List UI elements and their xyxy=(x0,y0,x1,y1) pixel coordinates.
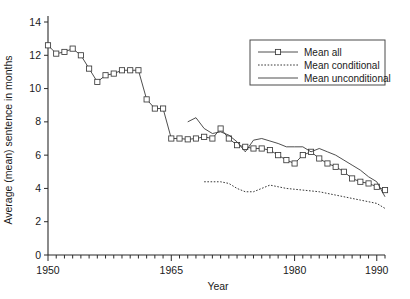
x-tick-label: 1990 xyxy=(365,264,389,276)
data-point-marker xyxy=(317,156,322,161)
legend-label: Mean conditional xyxy=(304,60,380,71)
data-point-marker xyxy=(366,181,371,186)
data-point-marker xyxy=(193,136,198,141)
data-point-marker xyxy=(136,68,141,73)
y-tick-label: 14 xyxy=(29,16,41,28)
y-tick-label: 12 xyxy=(29,49,41,61)
data-point-marker xyxy=(78,53,83,58)
data-point-marker xyxy=(45,43,50,48)
x-tick-label: 1980 xyxy=(283,264,307,276)
data-point-marker xyxy=(350,176,355,181)
data-point-marker xyxy=(259,146,264,151)
data-point-marker xyxy=(341,169,346,174)
y-axis-title: Average (mean) sentence in months xyxy=(2,55,14,224)
data-point-marker xyxy=(276,153,281,158)
series-mean-conditional xyxy=(204,182,385,209)
data-point-marker xyxy=(95,79,100,84)
data-point-marker xyxy=(300,153,305,158)
data-point-marker xyxy=(177,136,182,141)
data-point-marker xyxy=(382,187,387,192)
data-point-marker xyxy=(86,66,91,71)
data-point-marker xyxy=(333,164,338,169)
data-point-marker xyxy=(169,136,174,141)
data-point-marker xyxy=(152,106,157,111)
x-axis: 1950196519801990 xyxy=(36,255,388,276)
x-tick-label: 1965 xyxy=(160,264,184,276)
data-point-marker xyxy=(128,68,133,73)
legend-label: Mean all xyxy=(304,47,342,58)
data-point-marker xyxy=(70,46,75,51)
y-tick-label: 4 xyxy=(35,182,41,194)
data-point-marker xyxy=(292,161,297,166)
y-tick-label: 10 xyxy=(29,82,41,94)
data-point-marker xyxy=(54,51,59,56)
chart-canvas: 02468101214 1950196519801990 Mean allMea… xyxy=(0,0,410,299)
data-point-marker xyxy=(358,179,363,184)
data-point-marker xyxy=(210,136,215,141)
x-tick-label: 1950 xyxy=(36,264,60,276)
data-point-marker xyxy=(267,148,272,153)
data-point-marker xyxy=(325,161,330,166)
data-point-marker xyxy=(111,71,116,76)
data-point-marker xyxy=(160,106,165,111)
y-tick-label: 6 xyxy=(35,149,41,161)
x-axis-title: Year xyxy=(207,280,229,292)
data-point-marker xyxy=(202,134,207,139)
data-point-marker xyxy=(119,68,124,73)
data-point-marker xyxy=(103,73,108,78)
data-point-marker xyxy=(185,137,190,142)
data-point-marker xyxy=(62,49,67,54)
y-tick-label: 8 xyxy=(35,115,41,127)
y-axis: 02468101214 xyxy=(29,16,48,261)
data-point-marker xyxy=(218,126,223,131)
data-point-marker xyxy=(284,158,289,163)
y-tick-label: 0 xyxy=(35,249,41,261)
chart-figure: 02468101214 1950196519801990 Mean allMea… xyxy=(0,0,410,299)
chart-legend: Mean allMean conditionalMean uncondition… xyxy=(250,40,391,85)
data-point-marker xyxy=(144,97,149,102)
data-point-marker xyxy=(251,146,256,151)
legend-label: Mean unconditional xyxy=(304,73,391,84)
y-tick-label: 2 xyxy=(35,215,41,227)
